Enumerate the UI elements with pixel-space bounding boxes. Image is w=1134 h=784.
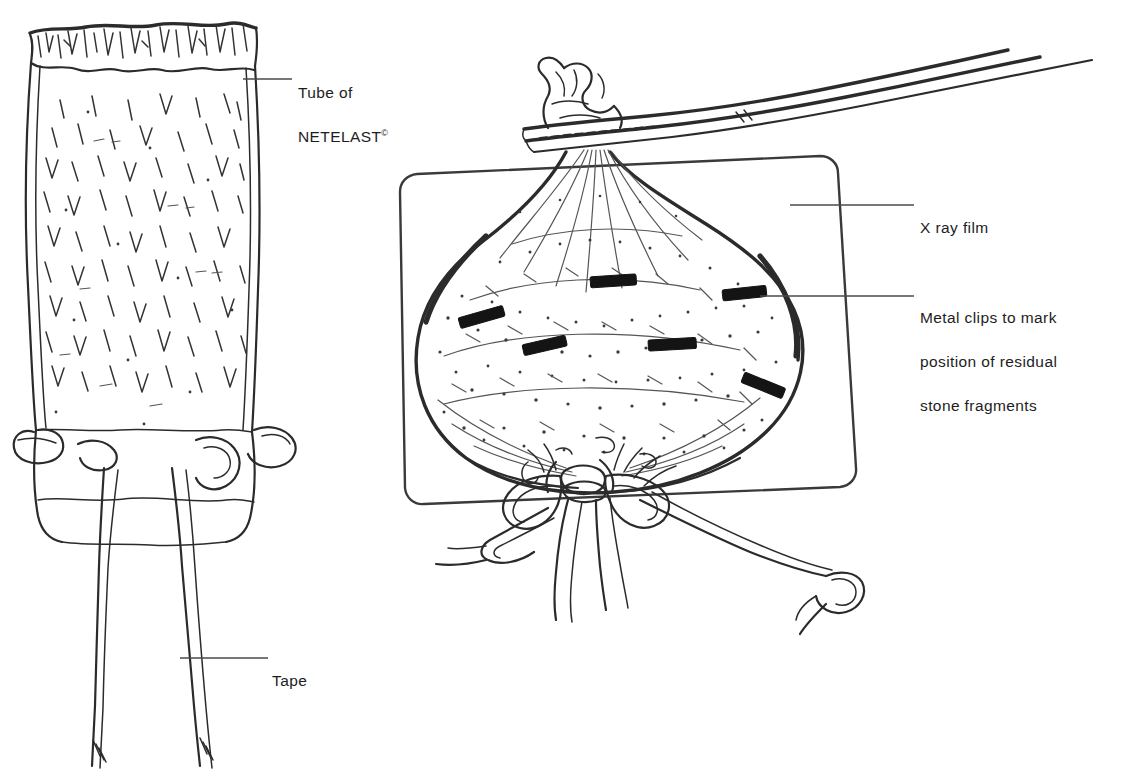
- callout-xray-line1: X ray film: [920, 219, 989, 236]
- metal-clips: [458, 274, 786, 399]
- metal-clip: [741, 372, 786, 399]
- frayed-top-edge: [30, 23, 257, 71]
- callout-netelast-line2: NETELAST: [298, 128, 381, 145]
- tube-lower-skirt: [14, 427, 296, 545]
- callout-netelast: Tube of NETELAST©: [298, 60, 388, 148]
- left-figure-netelast-tube: [14, 23, 296, 768]
- metal-clip: [590, 274, 637, 288]
- gathered-neck: [539, 58, 622, 128]
- forceps-instrument: [523, 50, 1092, 152]
- callout-tape-line1: Tape: [272, 672, 307, 689]
- callout-clips-line2: position of residual: [920, 353, 1057, 370]
- callout-clips-line1: Metal clips to mark: [920, 309, 1057, 326]
- copyright-symbol: ©: [381, 128, 388, 138]
- callout-clips-line3: stone fragments: [920, 397, 1037, 414]
- bag-stipple-texture: [438, 195, 777, 456]
- metal-clip: [722, 285, 767, 301]
- callout-clips: Metal clips to mark position of residual…: [920, 285, 1057, 417]
- callout-tape: Tape: [272, 648, 307, 692]
- figure-canvas: Tube of NETELAST© Tape X ray film Metal …: [0, 0, 1134, 784]
- tape-trails: [436, 492, 864, 634]
- metal-clip: [648, 337, 697, 350]
- metal-clip: [458, 305, 505, 328]
- mesh-texture: [44, 94, 246, 425]
- callout-netelast-line1: Tube of: [298, 84, 353, 101]
- tape-bow-tie: [503, 437, 676, 622]
- callout-xray: X ray film: [920, 195, 989, 239]
- tape-strands: [92, 468, 213, 768]
- x-ray-film-sheet: [400, 156, 856, 504]
